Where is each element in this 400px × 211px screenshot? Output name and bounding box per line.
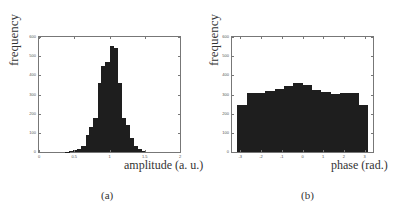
chart-a-ytick-label: 300 xyxy=(22,92,36,97)
chart-b-bar xyxy=(284,86,294,152)
chart-b-bar xyxy=(358,105,368,152)
chart-b-tick-mark xyxy=(282,150,283,152)
chart-b-tick-mark xyxy=(240,150,241,152)
chart-a-tick-mark xyxy=(74,150,75,152)
chart-b-plot-area xyxy=(231,36,374,153)
chart-a-tick-mark xyxy=(39,75,41,76)
chart-a-tick-mark xyxy=(39,114,41,115)
chart-b-bar xyxy=(275,89,285,152)
chart-a-tick-mark xyxy=(39,37,40,39)
chart-b-tick-mark xyxy=(232,75,234,76)
chart-a-tick-mark xyxy=(180,150,181,152)
chart-b-tick-mark xyxy=(282,37,283,39)
chart-b-bar xyxy=(340,93,350,152)
chart-b-tick-mark xyxy=(371,133,373,134)
chart-b-tick-mark xyxy=(261,150,262,152)
chart-a-tick-mark xyxy=(178,133,180,134)
chart-a-tick-mark xyxy=(180,37,181,39)
chart-a-xtick-label: 0.5 xyxy=(67,154,81,159)
chart-b-tick-mark xyxy=(344,37,345,39)
chart-b-tick-mark xyxy=(371,114,373,115)
chart-b-tick-mark xyxy=(232,133,234,134)
chart-b-bar xyxy=(312,90,322,152)
chart-b-tick-mark xyxy=(371,37,373,38)
chart-b-xtick-label: 0 xyxy=(296,154,310,159)
chart-b-xtick-label: 1 xyxy=(316,154,330,159)
chart-b-caption: (b) xyxy=(301,189,314,201)
chart-b-tick-mark xyxy=(232,114,234,115)
chart-a-tick-mark xyxy=(178,152,180,153)
chart-b-ytick-label: 500 xyxy=(215,53,229,58)
chart-b-bar xyxy=(330,94,340,152)
chart-a-plot-area xyxy=(38,36,181,153)
chart-b-ytick-label: 400 xyxy=(215,72,229,77)
chart-a-ytick-label: 100 xyxy=(22,130,36,135)
chart-a-tick-mark xyxy=(178,75,180,76)
chart-b-tick-mark xyxy=(240,37,241,39)
chart-b-bar xyxy=(247,93,257,152)
chart-a-tick-mark xyxy=(39,133,41,134)
chart-a-tick-mark xyxy=(145,37,146,39)
chart-a-panel: frequency 010020030040050060000.511.52 a… xyxy=(0,0,200,211)
chart-a-ytick-label: 200 xyxy=(22,111,36,116)
chart-b-panel: frequency 0100200300400500600-3-2-10123 … xyxy=(200,0,400,211)
chart-b-ylabel: frequency xyxy=(206,14,222,66)
chart-b-tick-mark xyxy=(232,56,234,57)
chart-b-ytick-label: 300 xyxy=(215,92,229,97)
chart-b-tick-mark xyxy=(303,150,304,152)
chart-a-tick-mark xyxy=(110,37,111,39)
chart-a-tick-mark xyxy=(178,56,180,57)
chart-a-tick-mark xyxy=(39,152,41,153)
chart-a-xtick-label: 0 xyxy=(32,154,46,159)
chart-b-xtick-label: -2 xyxy=(254,154,268,159)
chart-a-ytick-label: 400 xyxy=(22,72,36,77)
chart-b-tick-mark xyxy=(365,37,366,39)
chart-b-tick-mark xyxy=(371,152,373,153)
chart-b-bar xyxy=(321,92,331,152)
chart-a-tick-mark xyxy=(39,95,41,96)
chart-b-xtick-label: -1 xyxy=(275,154,289,159)
chart-a-caption: (a) xyxy=(101,189,113,201)
chart-a-tick-mark xyxy=(178,95,180,96)
chart-b-ytick-label: 200 xyxy=(215,111,229,116)
chart-a-tick-mark xyxy=(145,150,146,152)
chart-a-tick-mark xyxy=(39,56,41,57)
chart-b-bar xyxy=(349,93,359,152)
chart-b-bar xyxy=(302,85,312,152)
chart-b-bar xyxy=(265,91,275,152)
chart-b-tick-mark xyxy=(232,37,234,38)
chart-b-tick-mark xyxy=(323,150,324,152)
chart-b-tick-mark xyxy=(371,95,373,96)
chart-b-xlabel: phase (rad.) xyxy=(331,158,388,173)
chart-a-tick-mark xyxy=(74,37,75,39)
chart-b-tick-mark xyxy=(371,56,373,57)
chart-b-ytick-label: 100 xyxy=(215,130,229,135)
chart-a-xlabel: amplitude (a. u.) xyxy=(124,158,203,173)
chart-b-tick-mark xyxy=(232,152,234,153)
chart-b-tick-mark xyxy=(371,75,373,76)
chart-b-tick-mark xyxy=(323,37,324,39)
chart-b-tick-mark xyxy=(365,150,366,152)
chart-b-tick-mark xyxy=(303,37,304,39)
chart-b-ytick-label: 0 xyxy=(215,149,229,154)
chart-b-bar xyxy=(256,93,266,152)
chart-a-tick-mark xyxy=(110,150,111,152)
chart-a-ytick-label: 600 xyxy=(22,34,36,39)
chart-a-tick-mark xyxy=(178,114,180,115)
chart-a-tick-mark xyxy=(39,150,40,152)
chart-a-ylabel: frequency xyxy=(6,14,22,66)
chart-b-tick-mark xyxy=(232,95,234,96)
chart-b-tick-mark xyxy=(261,37,262,39)
chart-a-xtick-label: 1 xyxy=(103,154,117,159)
chart-b-tick-mark xyxy=(344,150,345,152)
chart-b-bar xyxy=(237,105,247,152)
chart-b-xtick-label: -3 xyxy=(233,154,247,159)
chart-b-ytick-label: 600 xyxy=(215,34,229,39)
chart-a-ytick-label: 500 xyxy=(22,53,36,58)
